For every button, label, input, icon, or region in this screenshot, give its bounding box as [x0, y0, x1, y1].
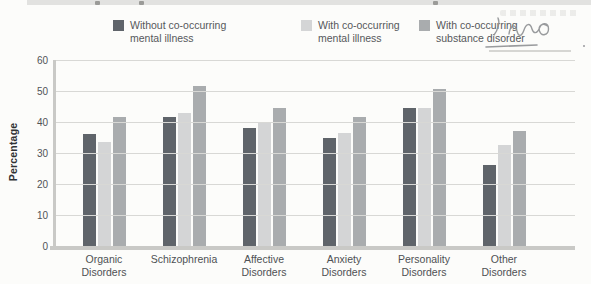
x-axis-label: OtherDisorders	[464, 253, 544, 279]
text-remnant	[433, 1, 438, 5]
figure-page: Without co-occurringmental illnessWith c…	[0, 0, 591, 284]
gridline-40	[56, 122, 575, 123]
bar	[273, 108, 286, 246]
gridline-60	[56, 60, 575, 61]
bar	[338, 133, 351, 246]
bar-group-schizophrenia	[163, 86, 206, 246]
y-tick-10: 10	[24, 210, 48, 221]
y-axis-line	[53, 60, 56, 250]
bar	[163, 117, 176, 246]
bar	[353, 117, 366, 246]
handwritten-scribble	[483, 2, 591, 56]
legend-swatch	[113, 20, 124, 31]
legend-label: Without co-occurringmental illness	[130, 19, 226, 45]
bar	[193, 86, 206, 246]
bar	[83, 134, 96, 246]
gridline-30	[56, 153, 575, 154]
bar	[113, 117, 126, 246]
legend-item: Without co-occurringmental illness	[113, 19, 226, 45]
text-remnant	[139, 1, 144, 5]
legend-swatch	[419, 20, 430, 31]
bar	[403, 108, 416, 246]
bar	[498, 145, 511, 246]
y-tick-50: 50	[24, 86, 48, 97]
y-tick-60: 60	[24, 55, 48, 66]
bar	[433, 89, 446, 246]
x-axis-label: AnxietyDisorders	[304, 253, 384, 279]
bar-group-other-disorders	[483, 131, 526, 246]
x-axis-line	[50, 246, 575, 250]
gridline-10	[56, 215, 575, 216]
gridline-20	[56, 184, 575, 185]
bar	[178, 113, 191, 246]
x-axis-label: PersonalityDisorders	[384, 253, 464, 279]
bar	[243, 128, 256, 246]
bar-group-anxiety-disorders	[323, 117, 366, 246]
legend-item: With co-occurringmental illness	[301, 19, 400, 45]
y-tick-0: 0	[24, 241, 48, 252]
text-remnant	[95, 1, 100, 5]
faint-rule	[489, 50, 571, 52]
x-axis-label: Schizophrenia	[144, 253, 224, 279]
y-axis-title: Percentage	[7, 72, 19, 232]
y-tick-30: 30	[24, 148, 48, 159]
x-axis-labels: OrganicDisordersSchizophreniaAffectiveDi…	[64, 253, 544, 279]
bar-group-affective-disorders	[243, 108, 286, 246]
legend-swatch	[301, 20, 312, 31]
bar-group-organic-disorders	[83, 117, 126, 246]
bar	[483, 165, 496, 246]
bar	[513, 131, 526, 246]
bar	[98, 142, 111, 246]
x-axis-label: OrganicDisorders	[64, 253, 144, 279]
x-axis-label: AffectiveDisorders	[224, 253, 304, 279]
bar-group-personality-disorders	[403, 89, 446, 246]
legend-label: With co-occurringmental illness	[318, 19, 400, 45]
plot-area: 0102030405060	[56, 60, 575, 246]
bar	[418, 108, 431, 246]
y-tick-20: 20	[24, 179, 48, 190]
gridline-50	[56, 91, 575, 92]
y-tick-40: 40	[24, 117, 48, 128]
